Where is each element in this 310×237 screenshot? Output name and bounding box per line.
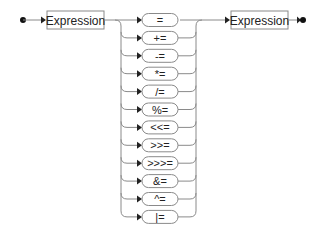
- operator-label: /=: [155, 86, 164, 98]
- operator-option[interactable]: %=: [121, 103, 196, 116]
- operator-option[interactable]: +=: [121, 31, 196, 44]
- connector-line: [178, 175, 196, 181]
- operator-option[interactable]: &=: [121, 175, 196, 188]
- connector-line: [178, 157, 196, 163]
- branch-rail-right: [196, 20, 202, 211]
- operator-option[interactable]: >>=: [121, 139, 196, 152]
- arrow-icon: [137, 88, 142, 95]
- operator-label: %=: [152, 104, 168, 116]
- connector-line: [178, 86, 196, 92]
- connector-line: [178, 121, 196, 127]
- connector-line: [178, 193, 196, 199]
- operator-option[interactable]: ^=: [121, 193, 196, 206]
- operator-label: <<=: [150, 121, 169, 133]
- connector-line: [178, 211, 196, 217]
- operator-option[interactable]: /=: [121, 85, 196, 98]
- operator-label: +=: [154, 32, 167, 44]
- arrow-icon: [137, 106, 142, 113]
- arrow-icon: [137, 142, 142, 149]
- operator-label: >>=: [150, 139, 169, 151]
- arrow-icon: [137, 70, 142, 77]
- operator-choice: =+=-=*=/=%=<<=>>=>>>=&=^=|=: [115, 14, 202, 224]
- railroad-diagram: Expression =+=-=*=/=%=<<=>>=>>>=&=^=|= E…: [0, 0, 310, 237]
- arrow-icon: [137, 17, 142, 24]
- branch-rail-left: [115, 20, 121, 211]
- operator-option[interactable]: |=: [121, 210, 196, 223]
- nonterminal-label: Expression: [230, 14, 289, 28]
- arrow-icon: [137, 196, 142, 203]
- arrow-icon: [137, 178, 142, 185]
- operator-label: ^=: [154, 193, 166, 205]
- operator-label: =: [157, 14, 163, 26]
- nonterminal-label: Expression: [46, 14, 105, 28]
- arrow-icon: [137, 34, 142, 41]
- operator-option[interactable]: =: [137, 14, 178, 27]
- nonterminal-expression-left[interactable]: Expression: [46, 11, 105, 29]
- arrow-icon: [137, 52, 142, 59]
- arrow-icon: [137, 213, 142, 220]
- operator-option[interactable]: *=: [121, 67, 196, 80]
- connector-line: [178, 32, 196, 38]
- operator-label: >>>=: [147, 157, 173, 169]
- arrow-icon: [137, 124, 142, 131]
- connector-line: [178, 50, 196, 56]
- connector-line: [178, 139, 196, 145]
- operator-option[interactable]: >>>=: [121, 157, 196, 170]
- operator-label: &=: [153, 175, 167, 187]
- operator-label: -=: [155, 50, 165, 62]
- operator-label: |=: [155, 211, 164, 223]
- nonterminal-expression-right[interactable]: Expression: [230, 11, 289, 29]
- connector-line: [178, 68, 196, 74]
- connector-line: [178, 104, 196, 110]
- operator-option[interactable]: -=: [121, 49, 196, 62]
- end-marker-icon: [300, 17, 306, 23]
- arrow-icon: [137, 160, 142, 167]
- operator-option[interactable]: <<=: [121, 121, 196, 134]
- operator-label: *=: [155, 68, 166, 80]
